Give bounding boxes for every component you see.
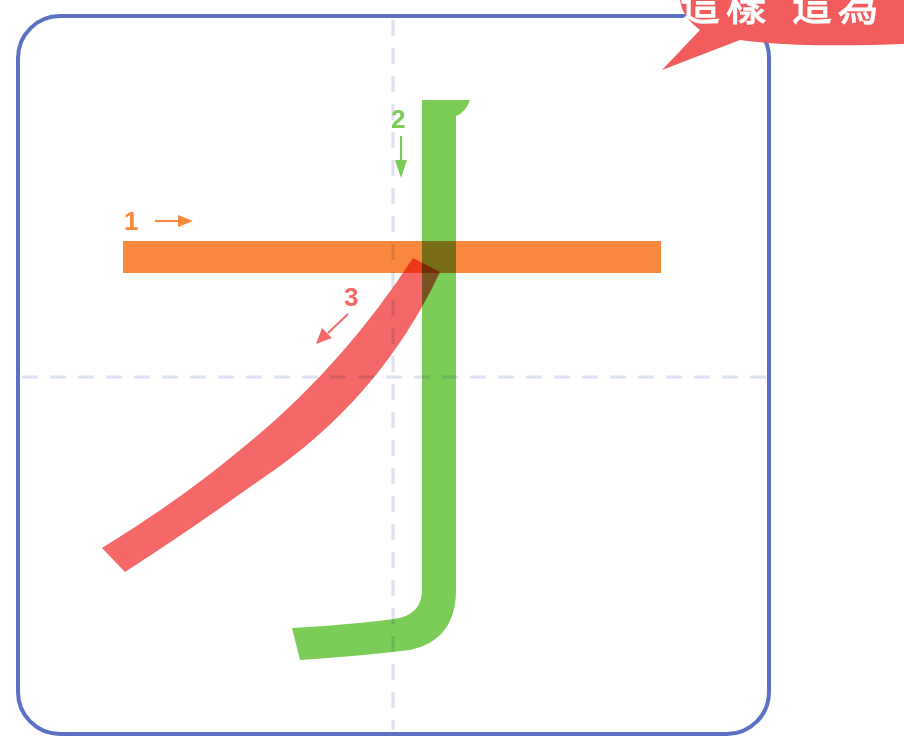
arrow-down-left-icon <box>316 314 348 344</box>
stroke-1-horizontal <box>123 241 661 273</box>
stroke-order-diagram: 這樣 這為 1 2 3 <box>0 0 904 737</box>
stroke-2-number: 2 <box>391 106 405 132</box>
diagram-svg <box>0 0 904 737</box>
stroke-3-left-falling <box>102 258 440 572</box>
stroke-1-number: 1 <box>124 208 138 234</box>
stroke-3-number: 3 <box>344 284 358 310</box>
speech-bubble-text: 這樣 這為 <box>680 0 884 32</box>
arrow-down-icon <box>395 136 407 178</box>
arrow-right-icon <box>155 215 193 227</box>
